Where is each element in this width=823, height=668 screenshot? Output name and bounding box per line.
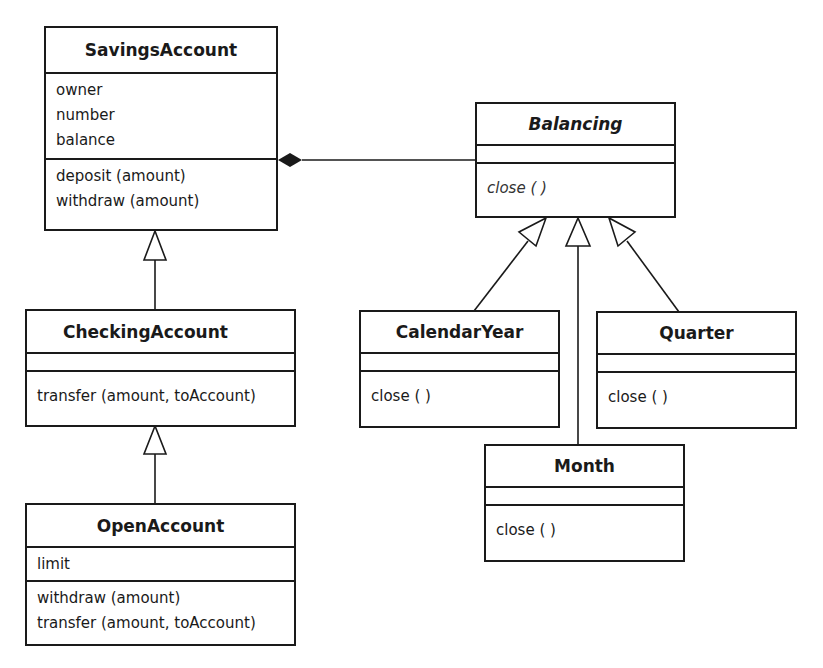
generalization-calendaryear-to-balancing (474, 218, 546, 311)
hollow-triangle-icon (519, 218, 546, 246)
operations-compartment: withdraw (amount) transfer (amount, toAc… (27, 582, 294, 640)
class-name: Quarter (598, 313, 795, 355)
filled-diamond-icon (278, 153, 302, 167)
class-month: Month close ( ) (484, 444, 685, 562)
class-name: Month (486, 446, 683, 488)
operations-compartment: transfer (amount, toAccount) (27, 372, 294, 413)
class-savings-account: SavingsAccount owner number balance depo… (44, 26, 278, 231)
class-quarter: Quarter close ( ) (596, 311, 797, 429)
operation: close ( ) (496, 518, 673, 543)
class-name: Balancing (477, 104, 674, 146)
composition-link (278, 153, 476, 167)
hollow-triangle-icon (144, 231, 166, 260)
class-name: OpenAccount (27, 505, 294, 548)
operation: transfer (amount, toAccount) (37, 384, 284, 409)
operation: withdraw (amount) (56, 189, 266, 214)
attributes-compartment (361, 354, 558, 372)
class-open-account: OpenAccount limit withdraw (amount) tran… (25, 503, 296, 646)
operations-compartment: close ( ) (361, 372, 558, 413)
operation: close ( ) (371, 384, 548, 409)
attributes-compartment (598, 355, 795, 373)
generalization-checking-to-savings (144, 231, 166, 310)
hollow-triangle-icon (609, 218, 635, 246)
class-checking-account: CheckingAccount transfer (amount, toAcco… (25, 309, 296, 427)
generalization-quarter-to-balancing (609, 218, 679, 312)
attributes-compartment: limit (27, 548, 294, 582)
operation: deposit (amount) (56, 164, 266, 189)
class-calendar-year: CalendarYear close ( ) (359, 310, 560, 428)
attribute: limit (37, 552, 284, 577)
class-name: SavingsAccount (46, 28, 276, 74)
hollow-triangle-icon (566, 218, 590, 246)
operations-compartment: deposit (amount) withdraw (amount) (46, 160, 276, 218)
operations-compartment: close ( ) (598, 373, 795, 414)
attributes-compartment (477, 146, 674, 164)
class-name: CheckingAccount (27, 311, 294, 354)
attribute: number (56, 103, 266, 128)
operations-compartment: close ( ) (486, 506, 683, 547)
attribute: balance (56, 128, 266, 153)
operation: transfer (amount, toAccount) (37, 611, 284, 636)
class-name: CalendarYear (361, 312, 558, 354)
operations-compartment: close ( ) (477, 164, 674, 205)
generalization-month-to-balancing (566, 218, 590, 445)
class-balancing: Balancing close ( ) (475, 102, 676, 218)
generalization-open-to-checking (144, 426, 166, 504)
attribute: owner (56, 78, 266, 103)
hollow-triangle-icon (144, 426, 166, 454)
operation: close ( ) (487, 176, 664, 201)
attributes-compartment (486, 488, 683, 506)
operation: withdraw (amount) (37, 586, 284, 611)
attributes-compartment (27, 354, 294, 372)
attributes-compartment: owner number balance (46, 74, 276, 160)
operation: close ( ) (608, 385, 785, 410)
